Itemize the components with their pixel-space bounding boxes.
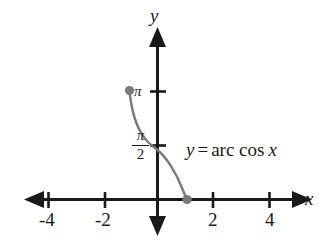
x-tick-label--2: -2 <box>95 210 111 229</box>
equation-annotation: y=arc cosx <box>186 140 277 159</box>
endpoint-dot-right <box>182 195 191 204</box>
equation-equals-sign: = <box>197 139 208 160</box>
equation-lhs: y <box>186 139 194 160</box>
x-tick-label-2: 2 <box>208 210 218 229</box>
endpoint-dot-left <box>125 86 134 95</box>
equation-rhs-variable: x <box>268 139 276 160</box>
half-pi-denominator: 2 <box>132 147 149 163</box>
x-tick-label-4: 4 <box>265 210 275 229</box>
x-axis-left-arrowhead <box>24 191 44 208</box>
x-tick-label--4: -4 <box>39 210 55 229</box>
x-axis-label: x <box>305 189 313 208</box>
equation-function-name: arc cos <box>211 139 264 160</box>
arccos-graph-figure: y x π π 2 -4 -2 2 4 y=arc cosx <box>0 0 326 247</box>
y-axis-top-arrowhead <box>149 27 166 47</box>
pi-value-label: π <box>134 84 142 99</box>
y-axis-label: y <box>150 6 158 25</box>
y-axis-bottom-arrowhead <box>149 216 166 236</box>
half-pi-value-label: π 2 <box>132 128 149 163</box>
half-pi-numerator: π <box>132 128 149 144</box>
